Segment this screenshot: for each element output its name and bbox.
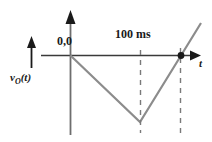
- y-axis-label-argument: (t): [21, 71, 31, 83]
- waveform-figure: 0,0 100 ms t vO(t): [0, 0, 212, 142]
- time-marker-label: 100 ms: [115, 28, 151, 40]
- v-axis: [66, 10, 76, 135]
- v-axis-arrowhead: [66, 10, 76, 24]
- vo-arrow-head: [27, 36, 36, 48]
- origin-label: 0,0: [57, 35, 72, 47]
- x-axis-label: t: [199, 58, 202, 69]
- vo-direction-arrow: [27, 36, 36, 68]
- t-axis: [41, 51, 201, 61]
- y-axis-label: vO(t): [10, 72, 31, 86]
- zero-crossing-marker: [178, 52, 185, 59]
- plot-canvas: [0, 0, 212, 142]
